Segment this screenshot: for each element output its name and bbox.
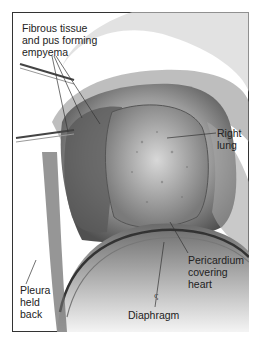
svg-text:ς: ς <box>154 291 159 300</box>
label-pericardium: Pericardium covering heart <box>188 254 244 290</box>
label-fibrous-tissue: Fibrous tissue and pus forming empyema <box>22 22 97 58</box>
label-pleura: Pleura held back <box>20 284 50 320</box>
label-diaphragm: Diaphragm <box>128 309 179 321</box>
label-right-lung: Right lung <box>217 127 242 151</box>
